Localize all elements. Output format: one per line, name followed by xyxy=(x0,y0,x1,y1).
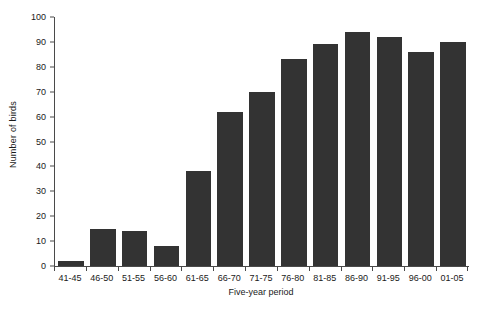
x-tick-label: 86-90 xyxy=(341,272,373,286)
y-tick-label: 50 xyxy=(36,137,46,146)
y-tick-label: 60 xyxy=(36,112,46,121)
bar-56-60 xyxy=(154,246,179,266)
x-axis-title: Five-year period xyxy=(54,287,468,297)
bar-series xyxy=(55,17,469,266)
bar-91-95 xyxy=(377,37,402,266)
x-tick-label: 01-05 xyxy=(436,272,468,286)
bar-chart: Number of birds 0102030405060708090100 4… xyxy=(0,0,478,311)
bar-46-50 xyxy=(90,229,115,266)
x-tick-mark xyxy=(213,267,214,271)
x-tick-mark xyxy=(245,267,246,271)
x-tick-mark xyxy=(372,267,373,271)
x-tick-mark xyxy=(54,267,55,271)
bar-slot xyxy=(373,17,405,266)
bar-slot xyxy=(310,17,342,266)
y-tick-label: 0 xyxy=(41,262,46,271)
x-tick-label: 66-70 xyxy=(213,272,245,286)
y-tick-label: 10 xyxy=(36,237,46,246)
bar-slot xyxy=(87,17,119,266)
bar-slot xyxy=(119,17,151,266)
bar-slot xyxy=(437,17,469,266)
x-tick-mark xyxy=(86,267,87,271)
bar-76-80 xyxy=(281,59,306,266)
bar-slot xyxy=(246,17,278,266)
x-tick-label: 56-60 xyxy=(150,272,182,286)
x-tick-label: 71-75 xyxy=(245,272,277,286)
x-tick-mark xyxy=(150,267,151,271)
x-tick-label: 46-50 xyxy=(86,272,118,286)
bar-41-45 xyxy=(58,261,83,266)
x-tick-label: 91-95 xyxy=(372,272,404,286)
x-tick-mark xyxy=(181,267,182,271)
y-tick-label: 100 xyxy=(31,13,46,22)
bar-86-90 xyxy=(345,32,370,266)
bar-96-00 xyxy=(408,52,433,266)
bar-slot xyxy=(405,17,437,266)
y-axis-title: Number of birds xyxy=(2,0,24,270)
bar-slot xyxy=(151,17,183,266)
bar-51-55 xyxy=(122,231,147,266)
plot-area xyxy=(54,17,469,267)
y-tick-label: 20 xyxy=(36,212,46,221)
x-tick-mark xyxy=(118,267,119,271)
y-tick-label: 80 xyxy=(36,62,46,71)
x-tick-label: 81-85 xyxy=(309,272,341,286)
bar-slot xyxy=(55,17,87,266)
bar-01-05 xyxy=(440,42,465,266)
x-tick-label: 41-45 xyxy=(54,272,86,286)
y-axis-title-text: Number of birds xyxy=(8,101,18,168)
bar-66-70 xyxy=(217,112,242,266)
bar-61-65 xyxy=(186,171,211,266)
bar-71-75 xyxy=(249,92,274,266)
x-tick-label: 96-00 xyxy=(404,272,436,286)
x-tick-mark xyxy=(404,267,405,271)
y-tick-label: 90 xyxy=(36,37,46,46)
x-tick-mark xyxy=(341,267,342,271)
x-axis-tick-labels: 41-4546-5051-5556-6061-6566-7071-7576-80… xyxy=(54,272,468,286)
x-tick-mark xyxy=(277,267,278,271)
x-tick-label: 61-65 xyxy=(181,272,213,286)
bar-slot xyxy=(278,17,310,266)
y-tick-label: 70 xyxy=(36,87,46,96)
x-tick-mark xyxy=(467,267,468,271)
bar-81-85 xyxy=(313,44,338,266)
y-axis-tick-labels: 0102030405060708090100 xyxy=(24,0,50,311)
bar-slot xyxy=(214,17,246,266)
x-tick-label: 76-80 xyxy=(277,272,309,286)
y-tick-label: 40 xyxy=(36,162,46,171)
y-tick-label: 30 xyxy=(36,187,46,196)
x-tick-label: 51-55 xyxy=(118,272,150,286)
bar-slot xyxy=(182,17,214,266)
x-tick-mark xyxy=(436,267,437,271)
x-tick-mark xyxy=(309,267,310,271)
bar-slot xyxy=(342,17,374,266)
